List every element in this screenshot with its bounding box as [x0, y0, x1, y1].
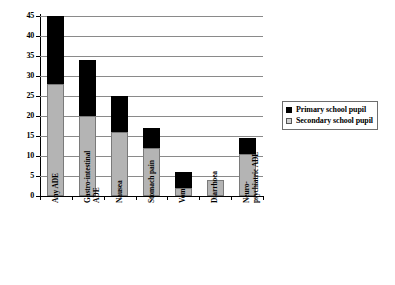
- x-axis-label-6: Diarrhoea: [211, 171, 220, 203]
- y-tick-label: 20: [2, 112, 34, 120]
- x-axis-label-4: Stomach pain: [148, 160, 157, 203]
- x-axis-label-1: Any ADE: [52, 173, 61, 203]
- y-tick-label: 0: [2, 192, 34, 200]
- y-tick-label: 45: [2, 12, 34, 20]
- bar-1: [47, 16, 64, 196]
- y-tick-label: 10: [2, 152, 34, 160]
- x-tick-mark: [136, 196, 137, 200]
- x-axis-label-7: Neuro- psychiatric ADE: [243, 152, 260, 203]
- y-tick-label: 5: [2, 172, 34, 180]
- y-tick-label: 30: [2, 72, 34, 80]
- x-axis-label-2: Gastro-intestinal ADE: [84, 151, 101, 203]
- y-tick-label: 35: [2, 52, 34, 60]
- legend-swatch-secondary-icon: [286, 118, 292, 124]
- bar-segment-primary: [47, 16, 64, 84]
- x-tick-mark: [167, 196, 168, 200]
- legend-label-primary: Primary school pupil: [296, 105, 366, 114]
- x-axis-label-5: Vomiting: [179, 174, 188, 203]
- stacked-bar-chart: 051015202530354045 Any ADEGastro-intesti…: [0, 0, 395, 285]
- legend-item-secondary: Secondary school pupil: [286, 115, 373, 126]
- x-tick-mark: [199, 196, 200, 200]
- x-axis-label-3: Nausea: [116, 180, 125, 203]
- x-tick-mark: [231, 196, 232, 200]
- y-tick-label: 40: [2, 32, 34, 40]
- bar-segment-primary: [111, 96, 128, 132]
- x-tick-mark: [263, 196, 264, 200]
- x-tick-mark: [72, 196, 73, 200]
- x-tick-mark: [104, 196, 105, 200]
- legend-swatch-primary-icon: [286, 107, 292, 113]
- legend-label-secondary: Secondary school pupil: [296, 116, 373, 125]
- legend-item-primary: Primary school pupil: [286, 104, 373, 115]
- chart-legend: Primary school pupil Secondary school pu…: [282, 101, 378, 130]
- y-tick-label: 25: [2, 92, 34, 100]
- bar-segment-primary: [143, 128, 160, 148]
- bar-segment-primary: [79, 60, 96, 116]
- x-tick-mark: [40, 196, 41, 200]
- y-tick-label: 15: [2, 132, 34, 140]
